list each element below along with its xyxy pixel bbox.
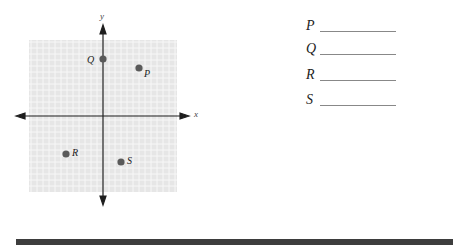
answer-blank[interactable] <box>320 80 396 81</box>
point-r-marker <box>62 150 69 157</box>
coordinate-plane: x y PQRS <box>0 0 220 220</box>
y-axis-label: y <box>100 12 104 21</box>
point-s-label: S <box>127 156 132 166</box>
answer-blank[interactable] <box>320 54 396 55</box>
point-q-label: Q <box>87 55 94 65</box>
point-r-label: R <box>72 148 78 158</box>
y-axis-up-arrow-icon <box>100 25 106 34</box>
point-s-marker <box>117 158 124 165</box>
answer-row-s: S <box>306 92 406 110</box>
answer-blank[interactable] <box>320 105 396 106</box>
point-p-label: P <box>144 69 150 79</box>
answer-label: Q <box>306 41 316 57</box>
x-axis-label: x <box>194 110 198 119</box>
answer-blank[interactable] <box>320 31 396 32</box>
coordinate-grid <box>0 0 220 220</box>
y-axis-down-arrow-icon <box>100 196 106 205</box>
point-q-marker <box>99 55 106 62</box>
answer-row-r: R <box>306 67 406 85</box>
x-axis-right-arrow-icon <box>180 113 189 119</box>
answer-label: P <box>306 18 315 34</box>
answer-label: R <box>306 67 315 83</box>
section-divider <box>16 239 453 245</box>
answer-row-p: P <box>306 18 406 36</box>
answer-row-q: Q <box>306 41 406 59</box>
point-p-marker <box>135 64 142 71</box>
x-axis-left-arrow-icon <box>16 113 25 119</box>
answer-label: S <box>306 92 313 108</box>
